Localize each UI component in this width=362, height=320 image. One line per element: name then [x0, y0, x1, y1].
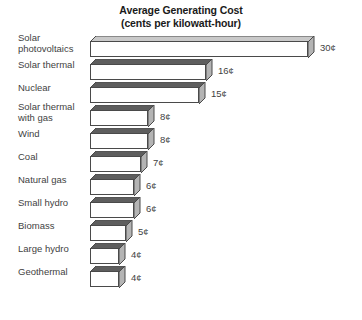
category-label: Small hydro: [18, 197, 90, 208]
bar-row: Wind8¢: [0, 128, 362, 151]
bar-side-face: [119, 266, 125, 289]
bar-value-label: 8¢: [160, 111, 171, 122]
bar-row: Small hydro6¢: [0, 197, 362, 220]
bar[interactable]: [90, 151, 147, 174]
bar-front-face: [90, 64, 206, 80]
category-label: Natural gas: [18, 174, 90, 185]
chart-title-line2: (cents per kilowatt-hour): [0, 17, 362, 30]
bar-value-label: 8¢: [160, 134, 171, 145]
bar-value-label: 4¢: [131, 249, 142, 260]
bar-row: Natural gas6¢: [0, 174, 362, 197]
category-label: Wind: [18, 128, 90, 139]
chart-title: Average Generating Cost (cents per kilow…: [0, 4, 362, 29]
category-label: Large hydro: [18, 243, 90, 254]
bar-value-label: 6¢: [146, 203, 157, 214]
plot-area: Solar photovoltaics30¢Solar thermal16¢Nu…: [0, 36, 362, 320]
bar[interactable]: [90, 105, 154, 128]
category-label: Biomass: [18, 220, 90, 231]
chart-title-line1: Average Generating Cost: [119, 4, 242, 16]
bar-side-face: [308, 36, 314, 59]
bar-side-face: [134, 197, 140, 220]
bar-side-face: [148, 105, 154, 128]
bar-row: Large hydro4¢: [0, 243, 362, 266]
bar-value-label: 30¢: [320, 42, 336, 53]
bar-front-face: [90, 179, 134, 195]
category-label: Solar thermal: [18, 59, 90, 70]
bar[interactable]: [90, 59, 212, 82]
bar-value-label: 4¢: [131, 272, 142, 283]
category-label: Coal: [18, 151, 90, 162]
bar[interactable]: [90, 197, 140, 220]
bar-front-face: [90, 225, 126, 241]
bar-side-face: [206, 59, 212, 82]
bar-value-label: 5¢: [138, 226, 149, 237]
bar-row: Solar thermal16¢: [0, 59, 362, 82]
bar-value-label: 7¢: [153, 157, 164, 168]
bar-side-face: [141, 151, 147, 174]
bar-value-label: 16¢: [218, 65, 234, 76]
bar-front-face: [90, 133, 148, 149]
bar-front-face: [90, 110, 148, 126]
bar-value-label: 6¢: [146, 180, 157, 191]
bar[interactable]: [90, 128, 154, 151]
bar-row: Geothermal4¢: [0, 266, 362, 289]
bar[interactable]: [90, 266, 125, 289]
category-label: Nuclear: [18, 82, 90, 93]
bar[interactable]: [90, 82, 205, 105]
category-label: Solar thermal with gas: [18, 101, 90, 123]
bar-front-face: [90, 202, 134, 218]
bar[interactable]: [90, 220, 132, 243]
bar-side-face: [199, 82, 205, 105]
bar-side-face: [119, 243, 125, 266]
bar[interactable]: [90, 174, 140, 197]
chart-container: Average Generating Cost (cents per kilow…: [0, 0, 362, 320]
category-label: Geothermal: [18, 266, 90, 277]
bar-row: Solar photovoltaics30¢: [0, 36, 362, 59]
bar-value-label: 15¢: [211, 88, 227, 99]
bar-side-face: [134, 174, 140, 197]
bar[interactable]: [90, 36, 314, 59]
bar-row: Biomass5¢: [0, 220, 362, 243]
bar-front-face: [90, 271, 119, 287]
bar-side-face: [148, 128, 154, 151]
bar-front-face: [90, 156, 141, 172]
bar-front-face: [90, 248, 119, 264]
bar-front-face: [90, 41, 308, 57]
bar-front-face: [90, 87, 199, 103]
bar-row: Coal7¢: [0, 151, 362, 174]
bar-side-face: [126, 220, 132, 243]
bar-row: Solar thermal with gas8¢: [0, 105, 362, 128]
bar[interactable]: [90, 243, 125, 266]
category-label: Solar photovoltaics: [18, 32, 90, 54]
